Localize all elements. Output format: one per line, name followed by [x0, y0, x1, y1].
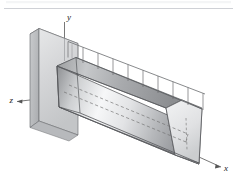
axis-z-arrow	[17, 100, 23, 104]
page-header-artifact	[4, 1, 233, 9]
figure-canvas: y z x	[0, 0, 237, 182]
wall-side-face	[30, 29, 39, 128]
axis-label-z: z	[9, 95, 14, 105]
axis-label-x: x	[223, 163, 228, 173]
axis-label-y: y	[66, 12, 71, 22]
beam-diagram-svg: y z x	[0, 0, 237, 182]
